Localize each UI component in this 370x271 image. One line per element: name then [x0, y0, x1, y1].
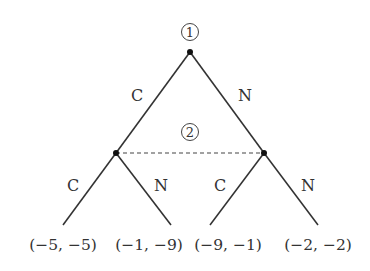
edge-root-C	[116, 52, 190, 153]
edge-root-N	[190, 52, 264, 153]
payoff-NN: (−2, −2)	[284, 236, 352, 254]
label-root-N: N	[238, 86, 252, 105]
label-right-C: C	[214, 176, 226, 195]
label-left-C: C	[67, 176, 79, 195]
root-node	[187, 49, 193, 55]
payoff-NC: (−9, −1)	[194, 236, 262, 254]
player-2-node-left	[113, 150, 119, 156]
label-left-N: N	[154, 176, 168, 195]
player-2-number: 2	[186, 125, 194, 140]
player-1-label: 1	[182, 24, 199, 41]
player-2-label: 2	[182, 124, 199, 141]
payoff-CC: (−5, −5)	[29, 236, 97, 254]
label-root-C: C	[131, 86, 143, 105]
player-2-node-right	[261, 150, 267, 156]
label-right-N: N	[301, 176, 315, 195]
player-1-number: 1	[186, 25, 194, 40]
payoff-CN: (−1, −9)	[115, 236, 183, 254]
game-tree-diagram: 1 2 C N C N C N (−5, −5) (−1, −9) (−9, −…	[0, 0, 370, 271]
